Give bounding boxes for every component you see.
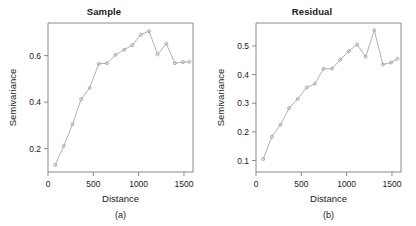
x-tick-label: 0	[254, 179, 259, 189]
x-tick-label: 1000	[337, 179, 356, 189]
axis-frame	[48, 23, 193, 172]
plot-sample: 0.20.40.6050010001500DistanceSemivarianc…	[0, 0, 208, 226]
x-tick-label: 1000	[129, 179, 148, 189]
y-tick-label: 0.4	[237, 70, 249, 80]
y-tick-label: 0.6	[29, 51, 41, 61]
x-tick-label: 0	[46, 179, 51, 189]
y-axis-title: Semivariance	[7, 69, 18, 127]
x-tick-label: 1500	[174, 179, 193, 189]
panel-residual: Residual 0.10.20.30.40.5050010001500Dist…	[208, 0, 416, 226]
y-tick-label: 0.5	[237, 41, 249, 51]
y-tick-label: 0.2	[29, 144, 41, 154]
x-tick-label: 500	[294, 179, 308, 189]
axis-lines	[256, 23, 401, 172]
x-tick-label: 1500	[382, 179, 401, 189]
axis-frame-top-right	[256, 23, 401, 172]
x-axis: 050010001500	[46, 172, 194, 189]
y-axis-title: Semivariance	[215, 69, 226, 127]
y-tick-label: 0.3	[237, 98, 249, 108]
y-axis: 0.20.40.6	[29, 51, 48, 154]
axis-lines	[48, 23, 193, 172]
y-tick-label: 0.2	[237, 127, 249, 137]
y-tick-label: 0.4	[29, 97, 41, 107]
x-axis-title: Distance	[102, 193, 139, 204]
series-points	[54, 30, 191, 167]
y-tick-label: 0.1	[237, 156, 249, 166]
axis-frame-top-right	[48, 23, 193, 172]
panel-sample: Sample 0.20.40.6050010001500DistanceSemi…	[0, 0, 208, 226]
x-axis-title: Distance	[310, 193, 347, 204]
x-tick-label: 500	[86, 179, 100, 189]
series-line	[263, 30, 397, 159]
panel-caption: (a)	[115, 210, 126, 220]
y-axis: 0.10.20.30.40.5	[237, 41, 256, 166]
axis-frame	[256, 23, 401, 172]
panel-caption: (b)	[323, 210, 334, 220]
series-line	[55, 31, 189, 165]
x-axis: 050010001500	[254, 172, 402, 189]
figure-container: Sample 0.20.40.6050010001500DistanceSemi…	[0, 0, 416, 226]
plot-residual: 0.10.20.30.40.5050010001500DistanceSemiv…	[208, 0, 416, 226]
series-points	[262, 29, 399, 161]
